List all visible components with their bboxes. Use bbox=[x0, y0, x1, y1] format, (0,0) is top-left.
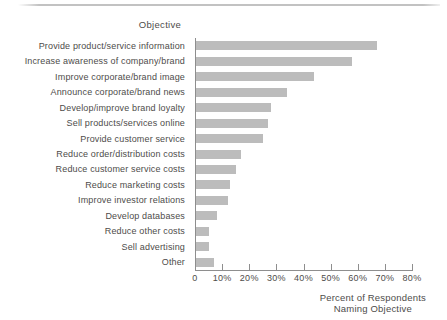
bar bbox=[195, 134, 263, 143]
bar-track bbox=[190, 146, 430, 161]
bar-track bbox=[190, 53, 430, 68]
chart-row: Develop/improve brand loyalty bbox=[0, 100, 430, 115]
y-axis-line bbox=[195, 38, 196, 271]
x-tick-label: 0 bbox=[192, 273, 197, 283]
category-label: Provide customer service bbox=[0, 134, 190, 144]
chart-row: Announce corporate/brand news bbox=[0, 84, 430, 99]
x-tick-label: 50% bbox=[321, 273, 340, 283]
bar bbox=[195, 180, 230, 189]
x-tick-label: 20% bbox=[240, 273, 259, 283]
bar-track bbox=[190, 239, 430, 254]
x-axis-tick bbox=[276, 264, 277, 270]
category-label: Increase awareness of company/brand bbox=[0, 56, 190, 66]
chart-row: Increase awareness of company/brand bbox=[0, 53, 430, 68]
category-label: Reduce customer service costs bbox=[0, 164, 190, 174]
bar bbox=[195, 119, 268, 128]
chart-row: Develop databases bbox=[0, 208, 430, 223]
x-axis-title: Percent of Respondents Naming Objective bbox=[320, 292, 426, 314]
x-axis-tick bbox=[331, 264, 332, 270]
bar-track bbox=[190, 38, 430, 53]
chart-row: Improve corporate/brand image bbox=[0, 69, 430, 84]
x-tick-label: 30% bbox=[267, 273, 286, 283]
x-axis-tick bbox=[412, 264, 413, 270]
x-tick-label: 10% bbox=[213, 273, 232, 283]
chart-row: Reduce other costs bbox=[0, 224, 430, 239]
bar bbox=[195, 227, 209, 236]
bar-chart: Provide product/service informationIncre… bbox=[0, 38, 430, 270]
bar bbox=[195, 258, 214, 267]
bar-track bbox=[190, 131, 430, 146]
x-tick-label: 70% bbox=[375, 273, 394, 283]
bar-track bbox=[190, 84, 430, 99]
bar bbox=[195, 150, 241, 159]
chart-row: Other bbox=[0, 255, 430, 270]
bar-track bbox=[190, 255, 430, 270]
x-tick-label: 60% bbox=[348, 273, 367, 283]
category-label: Sell advertising bbox=[0, 242, 190, 252]
category-label: Sell products/services online bbox=[0, 118, 190, 128]
chart-row: Improve investor relations bbox=[0, 193, 430, 208]
x-axis-tick bbox=[358, 264, 359, 270]
x-axis-title-line-1: Percent of Respondents bbox=[320, 292, 426, 303]
chart-row: Provide product/service information bbox=[0, 38, 430, 53]
bar-track bbox=[190, 177, 430, 192]
chart-row: Reduce customer service costs bbox=[0, 162, 430, 177]
category-label: Develop databases bbox=[0, 211, 190, 221]
bar bbox=[195, 196, 228, 205]
category-label: Provide product/service information bbox=[0, 41, 190, 51]
chart-row: Sell products/services online bbox=[0, 115, 430, 130]
chart-row: Sell advertising bbox=[0, 239, 430, 254]
x-tick-label: 40% bbox=[294, 273, 313, 283]
bar bbox=[195, 72, 314, 81]
category-label: Reduce marketing costs bbox=[0, 180, 190, 190]
bar-track bbox=[190, 100, 430, 115]
bar bbox=[195, 211, 217, 220]
bar bbox=[195, 165, 236, 174]
chart-title: Objective bbox=[100, 19, 220, 30]
x-axis-tick bbox=[222, 264, 223, 270]
category-label: Improve investor relations bbox=[0, 195, 190, 205]
chart-row: Reduce marketing costs bbox=[0, 177, 430, 192]
category-label: Other bbox=[0, 257, 190, 267]
category-label: Develop/improve brand loyalty bbox=[0, 103, 190, 113]
bar bbox=[195, 242, 209, 251]
x-axis-line bbox=[195, 270, 413, 271]
chart-row: Provide customer service bbox=[0, 131, 430, 146]
bar-track bbox=[190, 115, 430, 130]
x-axis-tick bbox=[385, 264, 386, 270]
category-label: Reduce other costs bbox=[0, 226, 190, 236]
category-label: Improve corporate/brand image bbox=[0, 72, 190, 82]
bar bbox=[195, 57, 352, 66]
x-tick-label: 80% bbox=[403, 273, 422, 283]
bar-track bbox=[190, 193, 430, 208]
category-label: Announce corporate/brand news bbox=[0, 87, 190, 97]
bar bbox=[195, 88, 287, 97]
x-axis-title-line-2: Naming Objective bbox=[320, 303, 426, 314]
chart-row: Reduce order/distribution costs bbox=[0, 146, 430, 161]
bar-track bbox=[190, 208, 430, 223]
bar-track bbox=[190, 162, 430, 177]
bar bbox=[195, 41, 377, 50]
category-label: Reduce order/distribution costs bbox=[0, 149, 190, 159]
bar-track bbox=[190, 224, 430, 239]
x-axis-tick bbox=[304, 264, 305, 270]
top-divider bbox=[18, 4, 440, 6]
bar-track bbox=[190, 69, 430, 84]
x-axis-tick bbox=[249, 264, 250, 270]
bar bbox=[195, 103, 271, 112]
